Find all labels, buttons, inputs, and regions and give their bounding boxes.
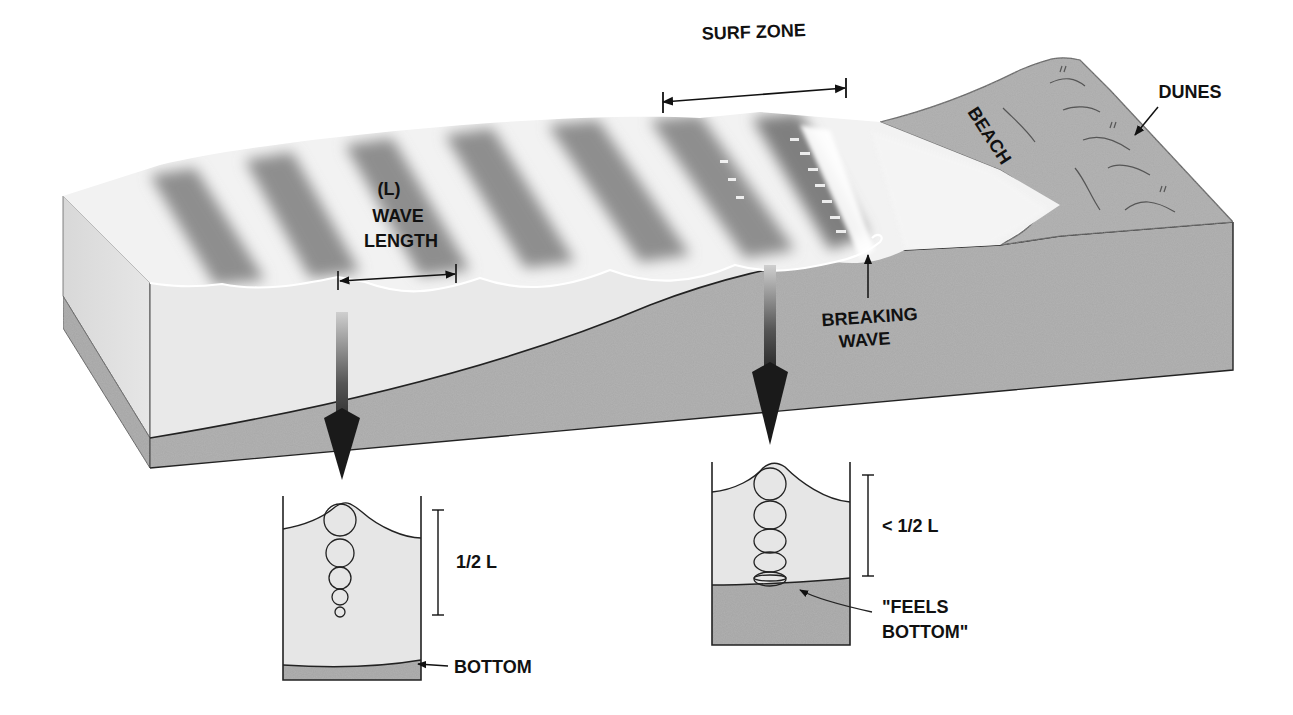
bottom-label: BOTTOM [454,657,532,677]
depth-scale-shallow [862,475,874,576]
feels-bottom-label-line1: "FEELS [882,597,949,617]
depth-label-shallow: < 1/2 L [882,516,939,536]
wave-length-label-line1: WAVE [372,206,424,226]
dunes-label: DUNES [1158,82,1221,102]
depth-label-deep: 1/2 L [456,552,497,572]
wave-length-label-line2: LENGTH [364,231,438,251]
bottom-pointer-arrow [418,664,448,666]
surf-zone-span-arrow [663,88,845,102]
dunes-annotation: DUNES [1135,82,1222,135]
depth-scale-deep [432,510,444,615]
surf-zone-label: SURF ZONE [701,20,806,44]
beach-block [60,58,1233,468]
wave-diagram: SURF ZONE DUNES BEACH (L) WAVE LENGTH BR… [0,0,1293,715]
wave-length-symbol: (L) [378,179,401,199]
inset-shallow-water: < 1/2 L "FEELS BOTTOM" [712,462,968,645]
surf-zone-annotation: SURF ZONE [663,20,846,113]
breaking-wave-label-line2: WAVE [838,328,891,352]
inset-deep-water: 1/2 L BOTTOM [283,496,532,680]
feels-bottom-label-line2: BOTTOM" [882,622,968,642]
